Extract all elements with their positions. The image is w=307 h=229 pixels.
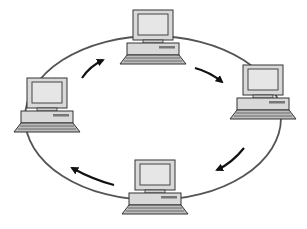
arrow-top-to-right	[195, 68, 222, 82]
computer-icon-right	[230, 65, 296, 119]
arrow-bottom-to-left	[72, 168, 114, 185]
diagram-canvas	[0, 0, 307, 229]
arrow-left-to-top	[82, 60, 103, 78]
ring-network-diagram	[0, 0, 307, 229]
computer-icon-left	[14, 78, 80, 132]
computer-icon-bottom	[122, 160, 188, 214]
arrow-right-to-bottom	[217, 148, 244, 170]
